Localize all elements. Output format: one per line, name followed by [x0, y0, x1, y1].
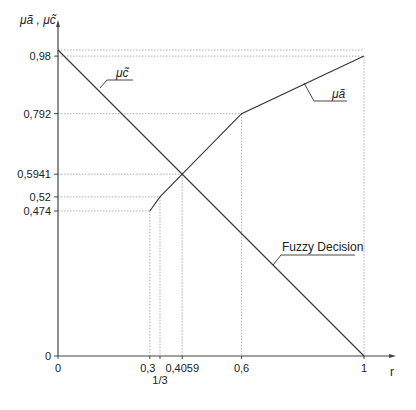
mu-a-line [150, 56, 364, 211]
mu-c-line [58, 50, 364, 356]
y-tick-label: 0,474 [23, 205, 51, 217]
y-tick-label: 0,5941 [17, 168, 51, 180]
y-axis-arrow-icon [56, 20, 60, 27]
x-axis-label: r [390, 365, 394, 379]
x-tick-label: 0,6 [234, 362, 249, 374]
y-tick-label: 0 [45, 350, 51, 362]
x-tick-label: 0,4059 [165, 362, 199, 374]
fuzzy-decision-leader [273, 255, 355, 265]
y-tick-label: 0,98 [30, 50, 51, 62]
series-lines [58, 50, 364, 356]
fuzzy-decision-label: Fuzzy Decision [282, 240, 363, 254]
axes [56, 20, 396, 358]
fuzzy-decision-chart: 00,4740,520,59410,7920,9800,31/30,40590,… [0, 0, 416, 410]
mu-c-leader [100, 80, 133, 88]
x-tick-label: 0,3 [140, 362, 155, 374]
mu-a-label: μã [331, 87, 346, 101]
y-tick-label: 0,792 [23, 108, 51, 120]
y-axis-label: μã , μc̃ [19, 13, 57, 27]
x-axis-arrow-icon [389, 354, 396, 358]
x-tick-label: 1 [361, 362, 367, 374]
x-tick-label: 1/3 [152, 374, 167, 386]
mu-c-label: μc̃ [115, 66, 129, 80]
x-tick-label: 0 [55, 362, 61, 374]
y-tick-label: 0,52 [30, 191, 51, 203]
tick-labels: 00,4740,520,59410,7920,9800,31/30,40590,… [17, 50, 367, 386]
